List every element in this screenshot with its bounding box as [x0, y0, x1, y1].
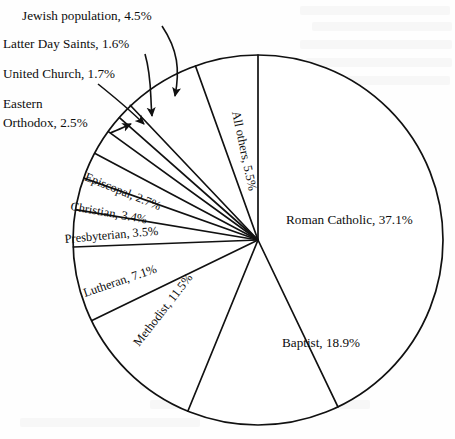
pie-chart-svg: Roman Catholic, 37.1% Baptist, 18.9% All…: [0, 0, 455, 439]
callout-label-eastern-orthodox-line2: Orthodox, 2.5%: [3, 115, 88, 130]
pie-chart-figure: Roman Catholic, 37.1% Baptist, 18.9% All…: [0, 0, 455, 439]
slice-label-roman-catholic: Roman Catholic, 37.1%: [286, 212, 413, 227]
callout-label-eastern-orthodox-line1: Eastern: [3, 96, 43, 111]
slice-label-baptist: Baptist, 18.9%: [282, 335, 360, 350]
callout-label-jewish-population: Jewish population, 4.5%: [22, 8, 152, 23]
callout-label-united-church: United Church, 1.7%: [3, 66, 115, 81]
callout-label-latter-day-saints: Latter Day Saints, 1.6%: [3, 36, 129, 51]
